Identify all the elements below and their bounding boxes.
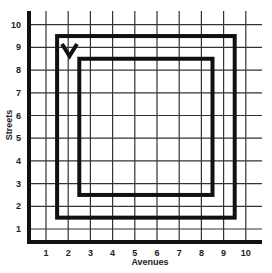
y-tick-label: 6 [16,111,21,121]
inner-square [79,59,212,195]
x-tick-label: 1 [43,248,48,258]
x-tick-label: 7 [177,248,182,258]
x-tick-label: 3 [88,248,93,258]
y-tick-label: 8 [16,65,21,75]
y-tick-label: 9 [16,42,21,52]
y-tick-label: 2 [16,201,21,211]
y-tick-label: 1 [16,224,21,234]
x-tick-label: 9 [221,248,226,258]
x-tick-label: 10 [241,248,251,258]
v-marker-icon [62,44,77,56]
y-tick-label: 4 [16,156,21,166]
y-tick-label: 5 [16,133,21,143]
x-axis-title: Avenues [131,257,168,267]
street-grid-diagram: 12345678910 12345678910 Avenues Streets [0,0,272,273]
x-tick-label: 4 [110,248,115,258]
outer-square [57,36,235,218]
y-axis-title: Streets [4,110,14,141]
x-tick-label: 8 [199,248,204,258]
y-tick-label: 7 [16,88,21,98]
y-tick-label: 10 [11,20,21,30]
route-paths [57,36,235,218]
x-tick-label: 2 [66,248,71,258]
y-tick-label: 3 [16,179,21,189]
